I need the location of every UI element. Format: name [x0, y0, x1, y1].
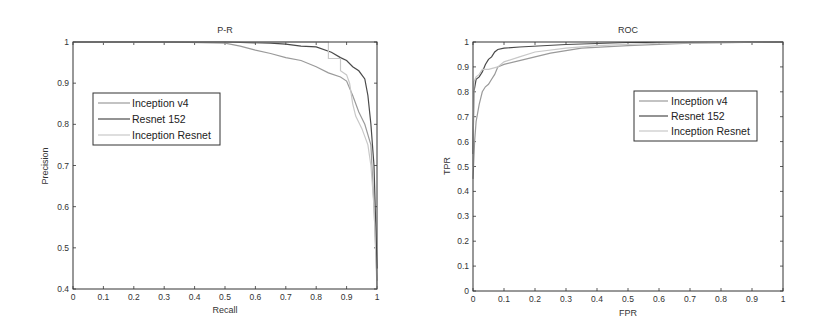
- x-tick-label: 0.7: [280, 292, 292, 302]
- roc-xlabel: FPR: [619, 308, 638, 318]
- x-tick-label: 1: [781, 294, 786, 304]
- pr-curves: [73, 42, 377, 289]
- roc-legend: Inception v4 Resnet 152 Inception Resnet: [634, 91, 757, 141]
- roc-legend-label-2: Inception Resnet: [671, 125, 750, 137]
- y-tick-label: 1: [464, 37, 469, 47]
- x-tick-label: 1: [375, 292, 380, 302]
- x-tick-label: 0.2: [529, 294, 541, 304]
- x-tick-label: 0.2: [128, 292, 140, 302]
- roc-legend-label-0: Inception v4: [671, 95, 728, 107]
- pr-legend-label-1: Resnet 152: [132, 113, 186, 125]
- y-tick-label: 0: [464, 286, 469, 296]
- y-tick-label: 0.9: [57, 78, 69, 88]
- x-tick-label: 0.3: [560, 294, 572, 304]
- x-tick-label: 0.5: [219, 292, 231, 302]
- roc-ticks: 00.10.20.30.40.50.60.70.80.9100.10.20.30…: [457, 37, 785, 304]
- y-tick-label: 0.7: [57, 161, 69, 171]
- charts-canvas: P-R Recall Precision 00.10.20.30.40.50.6…: [0, 0, 820, 329]
- y-tick-label: 0.2: [457, 236, 469, 246]
- roc-title: ROC: [618, 25, 639, 35]
- y-tick-label: 0.5: [57, 243, 69, 253]
- y-tick-label: 0.8: [457, 87, 469, 97]
- x-tick-label: 0.5: [622, 294, 634, 304]
- curve-inception-resnet: [73, 42, 377, 289]
- x-tick-label: 0.1: [97, 292, 109, 302]
- roc-legend-label-1: Resnet 152: [671, 110, 725, 122]
- curve-inception-v4: [73, 42, 377, 281]
- x-tick-label: 0.1: [498, 294, 510, 304]
- curve-resnet-152: [73, 42, 377, 268]
- x-tick-label: 0.6: [249, 292, 261, 302]
- roc-axes-frame: [473, 42, 783, 291]
- x-tick-label: 0.9: [341, 292, 353, 302]
- pr-ticks: 00.10.20.30.40.50.60.70.80.910.40.50.60.…: [57, 37, 379, 302]
- y-tick-label: 0.3: [457, 211, 469, 221]
- pr-legend: Inception v4 Resnet 152 Inception Resnet: [93, 93, 220, 145]
- pr-xlabel: Recall: [212, 305, 237, 315]
- y-tick-label: 0.1: [457, 261, 469, 271]
- y-tick-label: 0.8: [57, 119, 69, 129]
- x-tick-label: 0.4: [189, 292, 201, 302]
- pr-axes-frame: [73, 42, 377, 289]
- x-tick-label: 0: [71, 292, 76, 302]
- pr-ylabel: Precision: [40, 147, 50, 184]
- roc-ylabel: TPR: [442, 156, 452, 175]
- y-tick-label: 0.9: [457, 62, 469, 72]
- x-tick-label: 0.3: [158, 292, 170, 302]
- x-tick-label: 0.6: [653, 294, 665, 304]
- x-tick-label: 0.8: [715, 294, 727, 304]
- pr-legend-label-0: Inception v4: [132, 97, 189, 109]
- pr-legend-label-2: Inception Resnet: [132, 129, 211, 141]
- x-tick-label: 0.9: [746, 294, 758, 304]
- pr-plot: P-R Recall Precision 00.10.20.30.40.50.6…: [40, 25, 380, 315]
- x-tick-label: 0.8: [310, 292, 322, 302]
- y-tick-label: 0.5: [457, 162, 469, 172]
- figure: P-R Recall Precision 00.10.20.30.40.50.6…: [0, 0, 820, 329]
- y-tick-label: 0.6: [57, 202, 69, 212]
- y-tick-label: 0.6: [457, 137, 469, 147]
- x-tick-label: 0.7: [684, 294, 696, 304]
- y-tick-label: 0.4: [57, 284, 69, 294]
- pr-title: P-R: [217, 25, 233, 35]
- roc-plot: ROC FPR TPR 00.10.20.30.40.50.60.70.80.9…: [442, 25, 786, 318]
- y-tick-label: 0.4: [457, 186, 469, 196]
- x-tick-label: 0.4: [591, 294, 603, 304]
- y-tick-label: 0.7: [457, 112, 469, 122]
- x-tick-label: 0: [471, 294, 476, 304]
- y-tick-label: 1: [64, 37, 69, 47]
